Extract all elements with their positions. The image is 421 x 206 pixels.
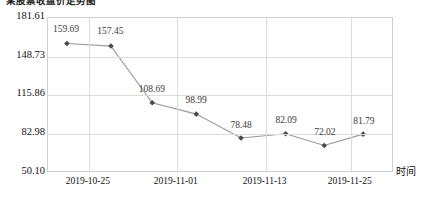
- data-point-label: 81.79: [353, 116, 374, 126]
- x-axis-title: 时间: [396, 163, 416, 178]
- x-axis-labels: 2019-10-252019-11-012019-11-132019-11-25: [47, 176, 393, 190]
- y-axis-tick-label: 148.73: [1, 49, 45, 60]
- y-axis-tick-label: 82.98: [1, 126, 45, 137]
- data-point-label: 159.69: [53, 24, 79, 34]
- data-point-label: 78.48: [230, 120, 251, 130]
- gridline-vertical: [89, 18, 90, 171]
- data-point-marker[interactable]: [321, 143, 327, 149]
- gridline-vertical: [177, 18, 178, 171]
- data-point-label: 108.69: [139, 84, 165, 94]
- x-axis-tick-label: 2019-10-25: [66, 176, 110, 186]
- y-axis-tick-label: 181.61: [1, 10, 45, 21]
- data-point-marker[interactable]: [193, 111, 199, 117]
- data-point-label: 98.99: [185, 95, 206, 105]
- data-point-label: 82.09: [275, 115, 296, 125]
- gridline-horizontal: [48, 134, 392, 135]
- y-axis-tick-label: 115.86: [1, 87, 45, 98]
- gridline-horizontal: [48, 57, 392, 58]
- y-axis-labels: 50.1082.98115.86148.73181.61: [0, 17, 45, 172]
- gridline-horizontal: [48, 95, 392, 96]
- gridline-vertical: [351, 18, 352, 171]
- chart-screenshot: 某股票收盘价走势图 50.1082.98115.86148.73181.61 2…: [0, 0, 421, 206]
- gridline-vertical: [266, 18, 267, 171]
- y-axis-tick-label: 50.10: [1, 165, 45, 176]
- x-axis-tick-label: 2019-11-13: [243, 176, 287, 186]
- chart-title: 某股票收盘价走势图: [6, 0, 96, 7]
- data-point-marker[interactable]: [64, 41, 70, 47]
- plot-area: [47, 17, 393, 172]
- data-point-label: 157.45: [97, 26, 123, 36]
- data-point-label: 72.02: [314, 127, 335, 137]
- x-axis-tick-label: 2019-11-01: [154, 176, 198, 186]
- data-point-marker[interactable]: [238, 135, 244, 141]
- x-axis-tick-label: 2019-11-25: [328, 176, 372, 186]
